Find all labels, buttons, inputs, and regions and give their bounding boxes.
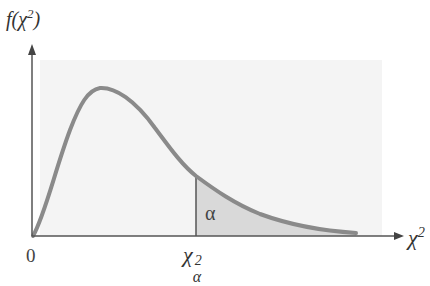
crit-label-chi: χ [183, 242, 193, 267]
y-label-f: f( [6, 8, 18, 30]
x-axis-arrow-icon [394, 232, 404, 240]
x-label-sup: 2 [418, 224, 425, 240]
y-axis-label: f(χ2) [6, 6, 40, 31]
x-label-chi: χ [408, 225, 418, 250]
y-label-close: ) [34, 8, 41, 30]
origin-label: 0 [26, 245, 36, 267]
critical-value-label: χ2α [183, 244, 203, 266]
crit-label-sub: α [193, 266, 201, 286]
alpha-label: α [205, 202, 215, 225]
y-axis-arrow-icon [28, 44, 36, 55]
x-axis-label: χ2 [408, 224, 425, 251]
y-label-chi: χ [18, 8, 27, 30]
